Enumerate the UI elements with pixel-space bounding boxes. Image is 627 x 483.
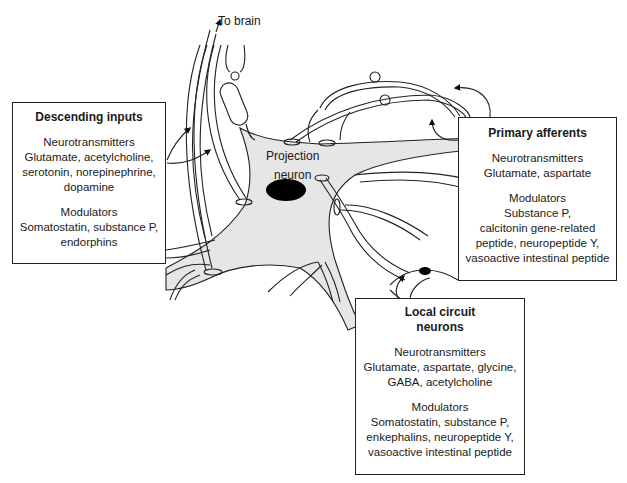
descending-modulators: Modulators Somatostatin, substance P, en… [13,205,165,250]
primary-modulators: Modulators Substance P, calcitonin gene-… [459,191,616,266]
projection-label-line1: Projection [266,147,319,166]
modulator-line: endorphins [13,235,165,250]
neurotransmitter-line: Glutamate, acetylcholine, [13,150,165,165]
neurotransmitter-line: Glutamate, aspartate, glycine, [356,360,524,375]
neurotransmitters-heading: Neurotransmitters [356,345,524,360]
local-circuit-title-line1: Local circuit [356,305,524,320]
modulators-heading: Modulators [459,191,616,206]
modulator-line: Somatostatin, substance P, [13,220,165,235]
descending-inputs-title: Descending inputs [13,110,165,125]
local-circuit-nucleus [419,267,431,275]
local-circuit-neurons-box: Local circuit neurons Neurotransmitters … [355,298,525,475]
modulator-line: vasoactive intestinal peptide [459,251,616,266]
neurotransmitter-line: serotonin, norepinephrine, [13,165,165,180]
projection-neuron-label: Projection neuron [266,147,319,185]
modulators-heading: Modulators [13,205,165,220]
projection-label-line2: neuron [266,166,319,185]
modulator-line: vasoactive intestinal peptide [356,445,524,460]
modulators-heading: Modulators [356,400,524,415]
neurotransmitter-line: Glutamate, aspartate [459,166,616,181]
local-modulators: Modulators Somatostatin, substance P, en… [356,400,524,460]
primary-neurotransmitters: Neurotransmitters Glutamate, aspartate [459,151,616,181]
neurotransmitters-heading: Neurotransmitters [13,135,165,150]
modulator-line: enkephalins, neuropeptide Y, [356,430,524,445]
neurotransmitter-line: dopamine [13,180,165,195]
local-circuit-title-line2: neurons [356,320,524,335]
modulator-line: Substance P, [459,206,616,221]
descending-neurotransmitters: Neurotransmitters Glutamate, acetylcholi… [13,135,165,195]
primary-afferents-title: Primary afferents [459,126,616,141]
primary-afferents-box: Primary afferents Neurotransmitters Glut… [458,117,617,281]
local-neurotransmitters: Neurotransmitters Glutamate, aspartate, … [356,345,524,390]
to-brain-label: To brain [218,14,261,28]
neurotransmitter-line: GABA, acetylcholine [356,375,524,390]
modulator-line: calcitonin gene-related [459,221,616,236]
descending-inputs-box: Descending inputs Neurotransmitters Glut… [12,102,166,264]
neurotransmitters-heading: Neurotransmitters [459,151,616,166]
local-circuit-title: Local circuit neurons [356,305,524,335]
modulator-line: Somatostatin, substance P, [356,415,524,430]
modulator-line: peptide, neuropeptide Y, [459,236,616,251]
